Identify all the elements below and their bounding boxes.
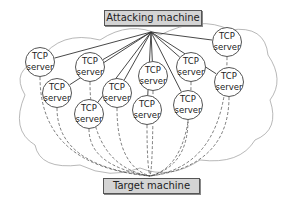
- server-label-line1: TCP: [109, 82, 125, 93]
- attacking-machine-label: Attacking machine: [106, 12, 200, 23]
- server-label-line2: server: [175, 105, 202, 116]
- server-label-line1: TCP: [145, 65, 161, 76]
- tcp-server-node: TCPserver: [138, 61, 168, 91]
- server-label-line1: TCP: [32, 51, 48, 62]
- server-label-line1: TCP: [180, 94, 196, 105]
- server-label-line1: TCP: [81, 103, 97, 114]
- server-label-line2: server: [104, 93, 131, 104]
- server-label-line2: server: [77, 67, 104, 78]
- tcp-server-node: TCPserver: [42, 78, 72, 108]
- tcp-server-node: TCPserver: [132, 95, 162, 125]
- tcp-server-node: TCPserver: [25, 47, 55, 77]
- server-label-line1: TCP: [221, 71, 237, 82]
- server-label-line1: TCP: [49, 82, 65, 93]
- tcp-server-node: TCPserver: [212, 27, 242, 57]
- tcp-server-node: TCPserver: [102, 78, 132, 108]
- server-label-line1: TCP: [183, 56, 199, 67]
- attacking-machine-box: Attacking machine: [104, 10, 202, 26]
- target-machine-box: Target machine: [103, 178, 200, 194]
- server-label-line2: server: [178, 67, 205, 78]
- tcp-server-node: TCPserver: [176, 52, 206, 82]
- server-label-line2: server: [214, 42, 241, 53]
- server-label-line1: TCP: [82, 56, 98, 67]
- server-label-line2: server: [44, 93, 71, 104]
- server-label-line2: server: [134, 110, 161, 121]
- server-label-line2: server: [76, 114, 103, 125]
- tcp-server-node: TCPserver: [74, 99, 104, 129]
- server-label-line1: TCP: [219, 31, 235, 42]
- server-label-line2: server: [216, 82, 243, 93]
- tcp-server-node: TCPserver: [173, 90, 203, 120]
- server-label-line2: server: [140, 76, 167, 87]
- server-label-line1: TCP: [139, 99, 155, 110]
- server-label-line2: server: [27, 62, 54, 73]
- target-machine-label: Target machine: [113, 180, 190, 191]
- tcp-server-node: TCPserver: [75, 52, 105, 82]
- tcp-server-node: TCPserver: [214, 67, 244, 97]
